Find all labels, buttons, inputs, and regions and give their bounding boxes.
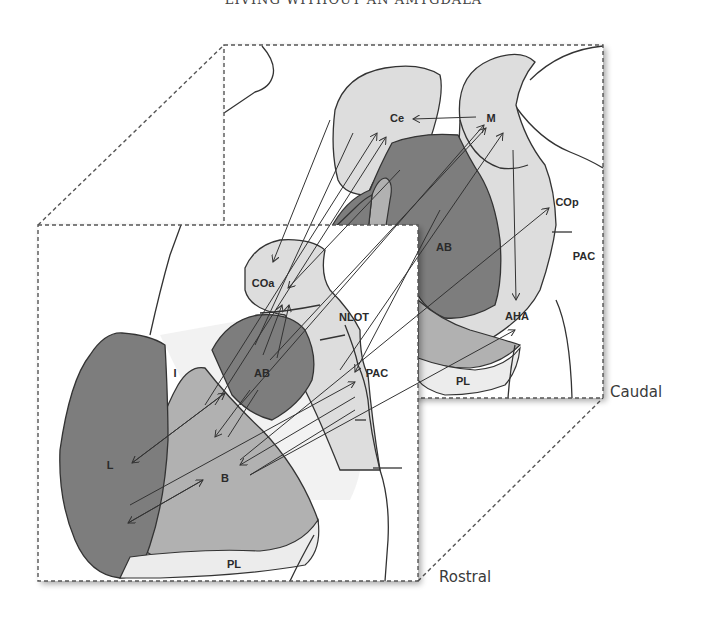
label-aha: AHA [505, 310, 529, 322]
label-b: B [221, 472, 229, 484]
caudal-label: Caudal [610, 383, 662, 401]
label-l: L [107, 459, 114, 471]
label-cop: COp [555, 196, 579, 208]
label-ab-rostral: AB [254, 367, 270, 379]
label-i: I [173, 367, 176, 379]
label-pac-rostral: PAC [366, 367, 388, 379]
label-pac-caudal: PAC [573, 250, 595, 262]
label-ab-caudal: AB [436, 241, 452, 253]
label-nlot: NLOT [339, 311, 369, 323]
label-m: M [486, 112, 495, 124]
amygdala-diagram: Ce M AB COp PAC AHA PL COa NLOT I AB PAC… [0, 0, 707, 617]
label-ce: Ce [390, 112, 404, 124]
rostral-label: Rostral [439, 568, 491, 586]
label-pl-caudal: PL [456, 375, 470, 387]
label-pl-rostral: PL [227, 558, 241, 570]
label-coa: COa [252, 277, 276, 289]
